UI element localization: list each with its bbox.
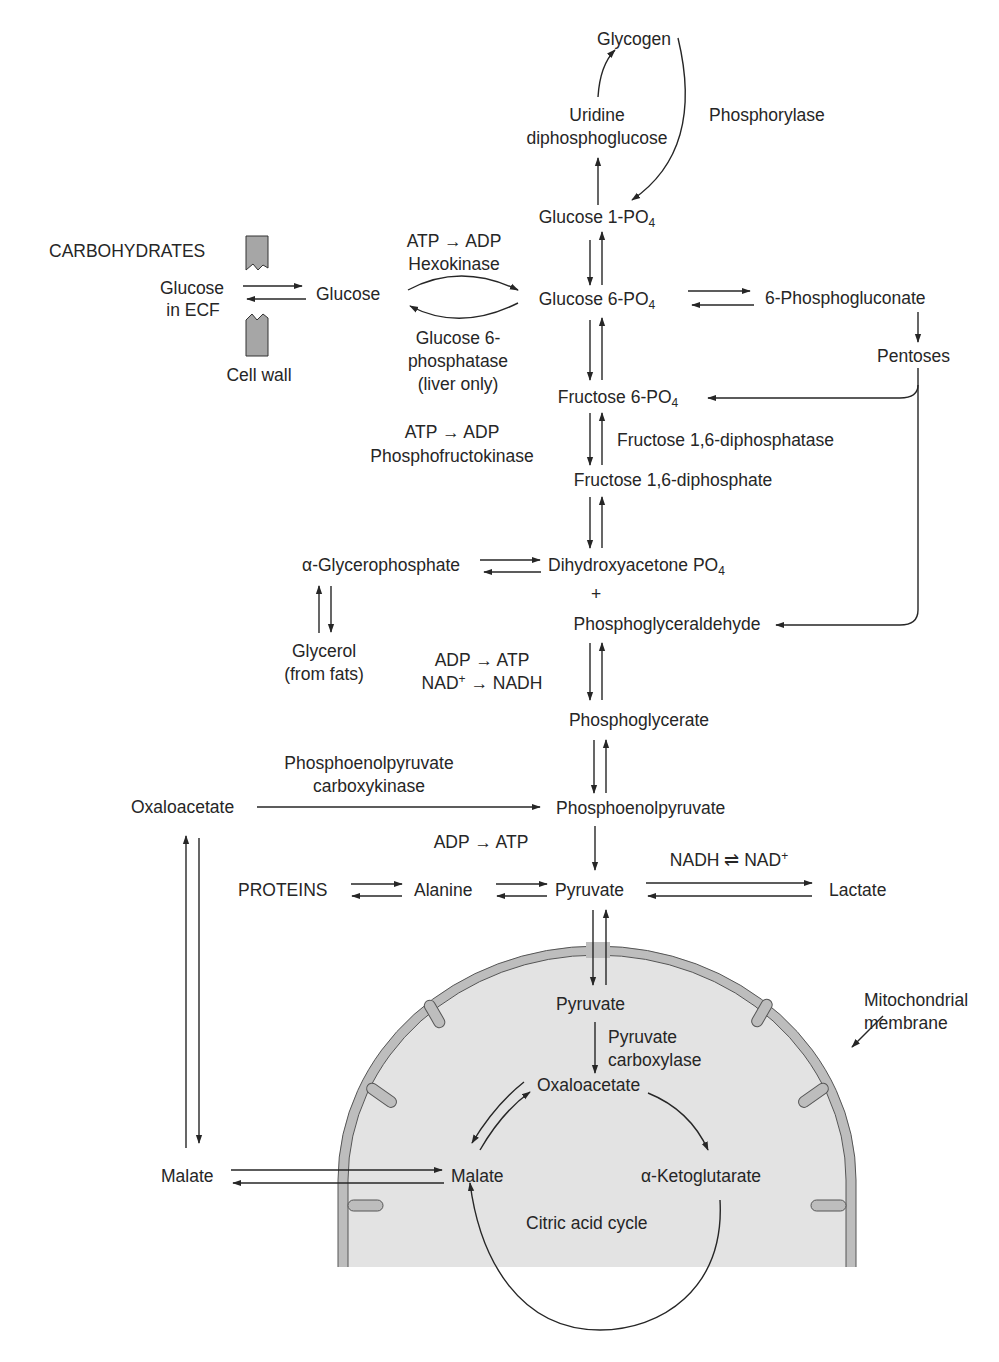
label-phosphorylase: Phosphorylase	[709, 105, 825, 126]
label-fructose-diphosphatase: Fructose 1,6-diphosphatase	[617, 430, 834, 451]
label-glucose: Glucose	[316, 284, 380, 305]
label-pyruvate-carboxylase-2: carboxylase	[608, 1050, 701, 1071]
label-6-phosphogluconate: 6-Phosphogluconate	[765, 288, 926, 309]
label-glucose-ecf-1: Glucose	[160, 278, 224, 299]
label-gapdh-cofactor-1: ADP → ATP	[435, 650, 530, 671]
cell-wall-upper	[246, 236, 268, 270]
label-g6pase-1: Glucose 6-	[416, 328, 501, 349]
label-pyruvate-cytosol: Pyruvate	[555, 880, 624, 901]
label-pentoses: Pentoses	[877, 346, 950, 367]
label-phosphofructokinase: Phosphofructokinase	[370, 446, 533, 467]
label-oxaloacetate-cytosol: Oxaloacetate	[131, 797, 234, 818]
cell-wall-lower	[246, 314, 268, 356]
label-fructose-6-phosphate: Fructose 6-PO4	[558, 387, 678, 408]
label-glucose-6-phosphate: Glucose 6-PO4	[539, 289, 656, 310]
label-glucose-ecf-2: in ECF	[166, 300, 219, 321]
label-phosphoglycerate: Phosphoglycerate	[569, 710, 709, 731]
label-citric-acid-cycle: Citric acid cycle	[526, 1213, 648, 1234]
label-alanine: Alanine	[414, 880, 472, 901]
label-udpg-1: Uridine	[569, 105, 624, 126]
label-pepck-1: Phosphoenolpyruvate	[284, 753, 453, 774]
label-membrane-1: Mitochondrial	[864, 990, 968, 1011]
label-g6pase-3: (liver only)	[418, 374, 499, 395]
label-malate-cytosol: Malate	[161, 1166, 214, 1187]
label-gapdh-cofactor-2: NAD+ → NADH	[422, 673, 543, 694]
label-malate-mito: Malate	[451, 1166, 504, 1187]
label-glycerol-1: Glycerol	[292, 641, 356, 662]
label-dihydroxyacetone-phosphate: Dihydroxyacetone PO4	[548, 555, 725, 576]
label-oxaloacetate-mito: Oxaloacetate	[537, 1075, 640, 1096]
label-proteins: PROTEINS	[238, 880, 327, 901]
label-phosphoglyceraldehyde: Phosphoglyceraldehyde	[574, 614, 761, 635]
label-membrane-2: membrane	[864, 1013, 948, 1034]
label-alpha-ketoglutarate: α-Ketoglutarate	[641, 1166, 761, 1187]
label-pyruvate-carboxylase-1: Pyruvate	[608, 1027, 677, 1048]
label-carbohydrates: CARBOHYDRATES	[49, 241, 205, 262]
label-fructose-1-6-diphosphate: Fructose 1,6-diphosphate	[574, 470, 772, 491]
label-pfk-cofactor: ATP → ADP	[405, 422, 500, 443]
label-glycogen: Glycogen	[597, 29, 671, 50]
label-plus: +	[591, 584, 601, 605]
label-hexokinase: Hexokinase	[408, 254, 499, 275]
metabolic-pathway-diagram: Glycogen Uridine diphosphoglucose Phosph…	[0, 0, 999, 1362]
label-pyruvate-mito: Pyruvate	[556, 994, 625, 1015]
label-udpg-2: diphosphoglucose	[526, 128, 667, 149]
label-alpha-glycerophosphate: α-Glycerophosphate	[302, 555, 460, 576]
label-g6pase-2: phosphatase	[408, 351, 508, 372]
label-hexokinase-cofactor: ATP → ADP	[407, 231, 502, 252]
label-lactate: Lactate	[829, 880, 886, 901]
label-pepck-2: carboxykinase	[313, 776, 425, 797]
label-phosphoenolpyruvate: Phosphoenolpyruvate	[556, 798, 725, 819]
label-glycerol-2: (from fats)	[284, 664, 364, 685]
label-ldh-cofactor: NADH ⇌ NAD+	[670, 850, 788, 871]
label-pk-cofactor: ADP → ATP	[434, 832, 529, 853]
label-cell-wall: Cell wall	[226, 365, 291, 386]
label-glucose-1-phosphate: Glucose 1-PO4	[539, 207, 656, 228]
